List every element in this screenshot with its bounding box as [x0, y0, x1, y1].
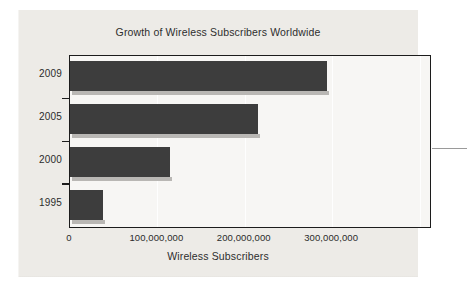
gridline [420, 56, 421, 227]
y-axis-tick [62, 141, 69, 143]
y-axis-tick [62, 98, 69, 100]
y-axis-tick [62, 183, 69, 185]
figure-panel: Growth of Wireless Subscribers Worldwide… [18, 10, 418, 277]
y-axis-label-2000: 2000 [18, 154, 62, 165]
bar-shadow [72, 134, 260, 138]
y-axis-label-1995: 1995 [18, 197, 62, 208]
x-axis-tick-label: 0 [66, 232, 71, 243]
bar-shadow [72, 220, 105, 224]
plot-frame [69, 55, 431, 228]
y-axis-label-2005: 2005 [18, 111, 62, 122]
bar-shadow [72, 177, 172, 181]
y-axis-label-2009: 2009 [18, 68, 62, 79]
bar-2009[interactable] [70, 61, 327, 91]
x-axis-title: Wireless Subscribers [18, 250, 418, 262]
chart-title: Growth of Wireless Subscribers Worldwide [18, 26, 418, 38]
gridline [332, 56, 333, 227]
bar-2000[interactable] [70, 147, 170, 177]
bar-shadow [72, 91, 329, 95]
x-axis-tick-label: 100,000,000 [129, 232, 183, 243]
page-margin-rule [432, 148, 467, 149]
x-axis-tick-label: 200,000,000 [217, 232, 271, 243]
x-axis-tick-label: 300,000,000 [304, 232, 358, 243]
bar-1995[interactable] [70, 190, 103, 220]
plot-area [70, 56, 430, 227]
bar-2005[interactable] [70, 104, 258, 134]
